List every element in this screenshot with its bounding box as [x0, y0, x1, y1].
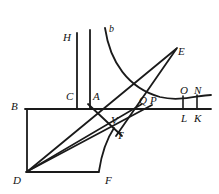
geometry-figure: H b E C A Q P O N B L K V T D F [0, 0, 219, 194]
point-label-D: D [13, 175, 21, 186]
point-label-P: P [150, 95, 157, 106]
point-label-K: K [194, 113, 201, 124]
point-label-C: C [66, 91, 73, 102]
line-from-D-to-E [28, 49, 176, 171]
point-label-T: T [117, 130, 123, 141]
point-label-V: V [111, 115, 118, 126]
line-from-D-to-P [28, 105, 152, 171]
point-label-F: F [105, 175, 112, 186]
line-from-D-to-Q [28, 104, 142, 171]
point-label-H: H [63, 32, 71, 43]
point-label-A: A [93, 91, 100, 102]
point-label-E: E [178, 46, 185, 57]
curve-from-F-up-to-V [99, 128, 114, 171]
point-label-B: B [11, 101, 18, 112]
point-label-O: O [180, 85, 188, 96]
point-label-N: N [194, 85, 201, 96]
point-label-L: L [181, 113, 187, 124]
point-label-Q: Q [139, 95, 147, 106]
curve-label-b: b [109, 24, 114, 34]
